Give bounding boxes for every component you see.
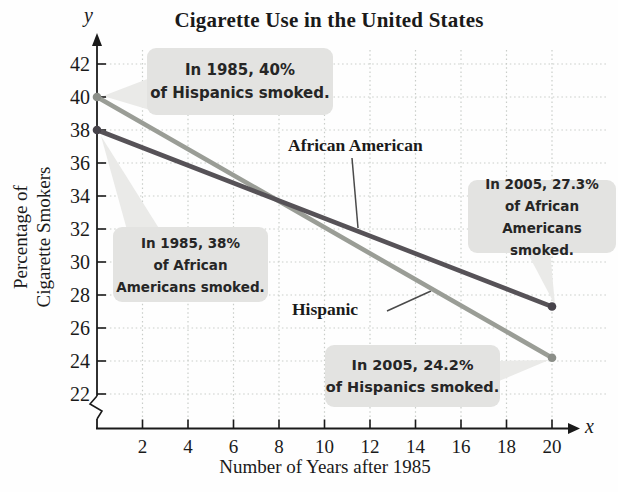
y-axis-label-line1: Percentage of [10,185,31,289]
y-tick-label: 22 [70,383,90,405]
x-tick-label: 14 [406,436,426,457]
x-axis-arrow [568,423,580,434]
callout-hispanic-1985: In 1985, 40% of Hispanics smoked. [147,48,333,115]
data-point-african-american [93,126,102,135]
leader-line-african-american [352,158,358,228]
y-tick-label: 26 [70,317,90,339]
figure: 22242628303234363840422468101214161820 C… [0,0,618,492]
y-axis-arrow [92,33,102,46]
y-tick-label: 38 [70,119,90,141]
data-point-african-american [548,302,557,311]
data-point-hispanic [548,353,557,362]
callout-african-1985: In 1985, 38% of African Americans smoked… [113,227,268,302]
y-tick-label: 34 [70,185,90,207]
x-tick-label: 6 [229,436,239,457]
y-tick-label: 30 [70,251,90,273]
y-tick-label: 32 [70,218,90,240]
callout-line: In 2005, 27.3% [468,173,616,195]
x-tick-label: 2 [138,436,148,457]
leader-line-hispanic [387,291,431,311]
callout-line: of African [113,254,268,276]
x-tick-label: 12 [361,436,380,457]
y-tick-label: 36 [70,152,90,174]
series-label-african-american: African American [288,135,423,156]
callout-line: In 1985, 38% [113,232,268,254]
x-tick-label: 20 [543,436,562,457]
x-tick-label: 4 [183,436,193,457]
y-tick-label: 40 [70,86,90,108]
data-point-hispanic [93,93,102,102]
y-axis-letter: y [84,4,93,27]
callout-line: In 1985, 40% [147,59,333,82]
chart-title: Cigarette Use in the United States [40,8,618,33]
callout-hispanic-2005: In 2005, 24.2% of Hispanics smoked. [325,345,500,407]
y-tick-label: 42 [70,53,90,75]
y-tick-label: 28 [70,284,90,306]
callout-line: Americans smoked. [113,276,268,298]
x-tick-label: 8 [274,436,284,457]
y-axis-label-line2: Cigarette Smokers [33,167,54,308]
x-axis-letter: x [585,415,594,438]
y-axis-label: Percentage ofCigarette Smokers [9,129,55,345]
callout-line: of African [468,195,616,217]
x-axis-label: Number of Years after 1985 [32,456,618,478]
x-tick-label: 16 [452,436,471,457]
x-tick-label: 18 [497,436,516,457]
callout-line: In 2005, 24.2% [325,354,500,376]
series-label-hispanic: Hispanic [292,299,358,320]
callout-african-2005: In 2005, 27.3% of African Americans smok… [468,180,616,253]
callout-line: of Hispanics smoked. [325,376,500,398]
y-tick-label: 24 [70,350,90,372]
x-tick-label: 10 [315,436,334,457]
callout-line: Americans smoked. [468,217,616,261]
y-axis-break [90,396,102,419]
callout-line: of Hispanics smoked. [147,82,333,105]
